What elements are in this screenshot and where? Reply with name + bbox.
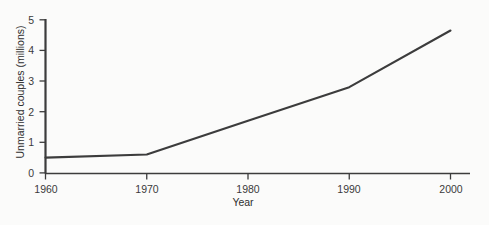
- x-tick-label-1990: 1990: [326, 183, 372, 195]
- line-chart: 5 4 3 2 1 0 1960 1970 1980 1990 2000 Unm…: [0, 0, 489, 225]
- x-axis-title: Year: [198, 196, 288, 208]
- x-tick-label-1960: 1960: [23, 183, 69, 195]
- x-tick-label-1970: 1970: [124, 183, 170, 195]
- x-tick-marks: [46, 174, 451, 180]
- x-tick-label-1980: 1980: [225, 183, 271, 195]
- data-series-line: [46, 31, 451, 158]
- y-axis-title: Unmarried couples (millions): [14, 12, 26, 172]
- x-tick-label-2000: 2000: [428, 183, 474, 195]
